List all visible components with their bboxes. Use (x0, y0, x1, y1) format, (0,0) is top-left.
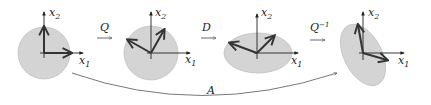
x2-axis-label: x2 (49, 6, 60, 21)
transform-q-inverse-label: Q−1 (310, 21, 329, 34)
x2-axis-label: x2 (261, 6, 272, 21)
transform-d: D (201, 21, 216, 38)
panel-rotated-circle: x2 x1 (124, 6, 196, 80)
overall-transform-arrow (72, 73, 337, 96)
transform-q-label: Q (100, 21, 109, 34)
overall-transform-label: A (206, 84, 215, 97)
x1-axis-label: x1 (79, 54, 90, 69)
x2-axis-label: x2 (368, 6, 379, 21)
overall-transform-a: A (72, 73, 337, 97)
transform-q: Q (97, 21, 112, 38)
transform-d-label: D (201, 21, 211, 34)
x1-axis-label: x1 (185, 53, 196, 68)
panel-scaled-ellipse: x2 x1 (224, 6, 302, 73)
panel-rotated-ellipse: x2 x1 (331, 6, 409, 93)
diagram-canvas: x2 x1 Q x2 x1 D x2 x1 Q−1 (0, 0, 431, 105)
x1-axis-label: x1 (398, 54, 409, 69)
x2-axis-label: x2 (155, 6, 166, 21)
x1-axis-label: x1 (291, 54, 302, 69)
transform-q-inverse: Q−1 (310, 21, 329, 40)
panel-original-circle: x2 x1 (18, 6, 90, 79)
